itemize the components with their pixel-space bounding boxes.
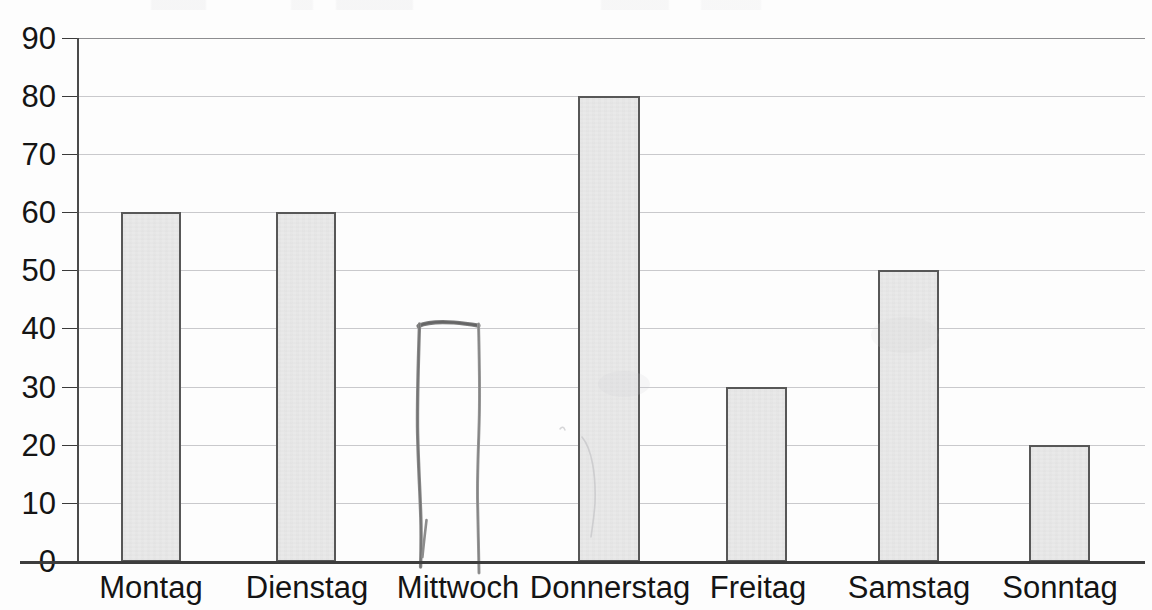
xtick-label-sonntag: Sonntag bbox=[985, 569, 1135, 606]
bar-mittwoch-handdrawn bbox=[400, 305, 510, 580]
ytick-label-40: 40 bbox=[0, 313, 56, 344]
ytick-label-90: 90 bbox=[0, 23, 56, 54]
bar-montag bbox=[121, 212, 181, 562]
ytick-label-20: 20 bbox=[0, 430, 56, 461]
bar-dienstag bbox=[276, 212, 336, 562]
xtick-label-donnerstag: Donnerstag bbox=[517, 569, 703, 606]
xtick-label-freitag: Freitag bbox=[690, 569, 826, 606]
ytick-label-60: 60 bbox=[0, 197, 56, 228]
ytick-mark-80 bbox=[62, 96, 78, 97]
bar-texture bbox=[123, 214, 179, 560]
bar-freitag bbox=[726, 387, 787, 562]
chart-screenshot: 90 80 70 60 50 40 30 20 10 0 bbox=[0, 0, 1152, 610]
ytick-mark-30 bbox=[62, 387, 78, 388]
ytick-mark-10 bbox=[62, 503, 78, 504]
ytick-mark-90 bbox=[62, 38, 78, 39]
ytick-mark-40 bbox=[62, 328, 78, 329]
xtick-label-dienstag: Dienstag bbox=[227, 569, 387, 606]
bar-texture bbox=[880, 272, 937, 560]
ytick-label-80: 80 bbox=[0, 81, 56, 112]
ytick-label-70: 70 bbox=[0, 139, 56, 170]
y-axis-line bbox=[77, 38, 79, 563]
bar-texture bbox=[580, 98, 638, 560]
bar-texture bbox=[278, 214, 334, 560]
bar-texture bbox=[1031, 447, 1088, 560]
bar-texture bbox=[728, 389, 785, 560]
bar-donnerstag bbox=[578, 96, 640, 562]
bar-chart: 90 80 70 60 50 40 30 20 10 0 bbox=[0, 0, 1152, 610]
xtick-label-mittwoch: Mittwoch bbox=[377, 569, 539, 606]
x-axis-line bbox=[20, 561, 1145, 564]
ytick-label-10: 10 bbox=[0, 488, 56, 519]
bar-samstag bbox=[878, 270, 939, 562]
xtick-label-samstag: Samstag bbox=[833, 569, 985, 606]
ytick-label-30: 30 bbox=[0, 372, 56, 403]
gridline-90 bbox=[78, 38, 1145, 39]
ytick-mark-50 bbox=[62, 270, 78, 271]
ytick-mark-20 bbox=[62, 445, 78, 446]
xtick-label-montag: Montag bbox=[76, 569, 226, 606]
bar-sonntag bbox=[1029, 445, 1090, 562]
ytick-mark-60 bbox=[62, 212, 78, 213]
ytick-label-50: 50 bbox=[0, 255, 56, 286]
ytick-mark-70 bbox=[62, 154, 78, 155]
